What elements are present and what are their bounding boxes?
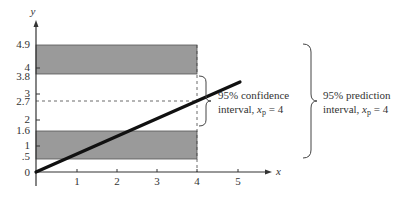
x-tick-label: 1	[74, 175, 80, 187]
confidence-sublabel: interval, xp = 4	[218, 103, 284, 117]
prediction-brace-icon	[303, 44, 317, 158]
confidence-prediction-diagram: 1 2 3 4 5 4.9 4 3.8 3 2.7 2 1.6 1 .5 0 y…	[0, 0, 408, 197]
prediction-label: 95% prediction	[323, 89, 391, 101]
y-tick-label: .5	[22, 150, 31, 162]
x-tick-label: 2	[114, 175, 120, 187]
x-tick-label: 5	[235, 175, 241, 187]
x-axis-label: x	[275, 165, 281, 177]
x-axis-arrow-icon	[265, 170, 272, 175]
y-tick-label: 2.7	[16, 95, 30, 107]
upper-prediction-band	[36, 45, 197, 74]
x-tick-label: 3	[154, 175, 160, 187]
y-axis-arrow-icon	[34, 20, 39, 27]
y-tick-label: 1.6	[16, 124, 30, 136]
confidence-label: 95% confidence	[218, 89, 289, 101]
y-tick-label: 0	[25, 166, 31, 178]
prediction-sublabel: interval, xp = 4	[323, 103, 389, 117]
x-tick-label: 4	[194, 175, 200, 187]
y-tick-label: 4.9	[16, 38, 30, 50]
y-axis-label: y	[30, 5, 36, 17]
y-tick-label: 3.8	[16, 70, 30, 82]
